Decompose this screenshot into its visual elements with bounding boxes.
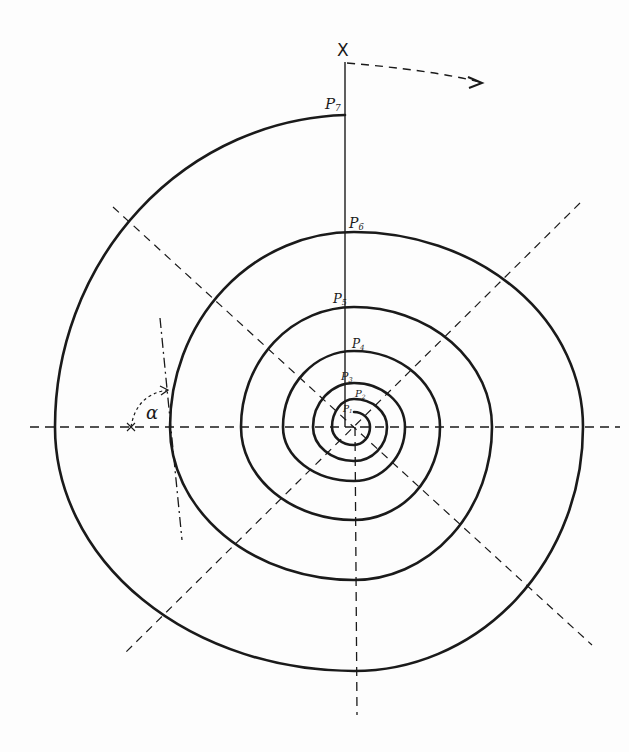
rotation-arrow bbox=[347, 63, 480, 82]
angle-alpha-label: α bbox=[146, 404, 158, 422]
diagonal-axis-2 bbox=[124, 203, 580, 654]
point-p3-label: P3 bbox=[341, 371, 353, 383]
rotation-arrowhead bbox=[468, 77, 482, 88]
diagram-drawing bbox=[0, 0, 629, 752]
point-p4-label: P4 bbox=[352, 338, 365, 351]
point-p5-label: P5 bbox=[333, 292, 347, 307]
point-p6-label: P6 bbox=[349, 216, 364, 232]
point-p2-label: P2 bbox=[355, 389, 366, 400]
spiral-diagram: X P7 P6 P5 P4 P3 P2 P1 α bbox=[0, 0, 629, 752]
axis-x-label: X bbox=[337, 42, 349, 59]
point-p1-label: P1 bbox=[343, 405, 353, 415]
point-p7-label: P7 bbox=[325, 97, 341, 113]
logarithmic-spiral bbox=[55, 115, 583, 671]
